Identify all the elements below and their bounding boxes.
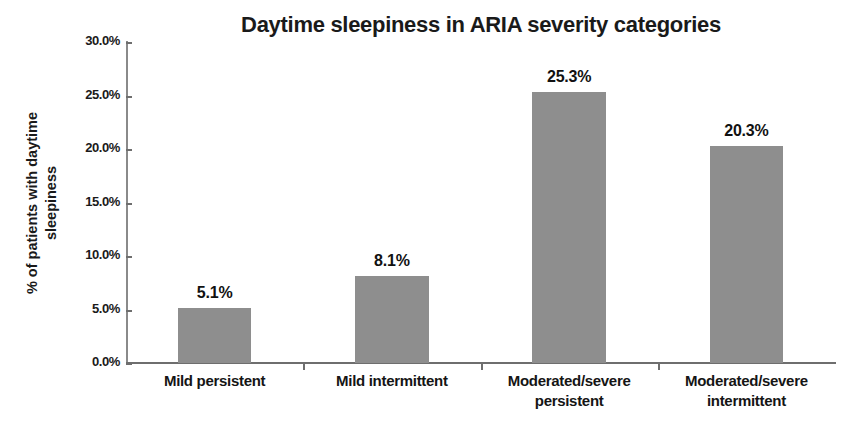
bar-value-label: 5.1%	[126, 284, 303, 302]
x-axis-category-line: Mild intermittent	[303, 371, 480, 391]
y-tick-label: 25.0%	[58, 87, 120, 102]
bar-value-label: 8.1%	[303, 252, 480, 270]
bar[interactable]	[710, 146, 784, 363]
bar-value-label: 25.3%	[481, 68, 658, 86]
y-tick-label: 5.0%	[58, 301, 120, 316]
x-axis-category-line: Moderated/severe	[658, 371, 835, 391]
x-axis-category-label: Moderated/severepersistent	[481, 371, 658, 411]
y-tick-mark	[126, 310, 132, 312]
y-tick-mark	[126, 256, 132, 258]
y-tick-mark	[126, 42, 132, 44]
y-tick-label: 10.0%	[58, 247, 120, 262]
x-tick-mark	[303, 363, 305, 370]
x-axis-category-label: Moderated/severeintermittent	[658, 371, 835, 411]
x-axis-category-line: Moderated/severe	[481, 371, 658, 391]
x-axis-category-line: intermittent	[658, 391, 835, 411]
y-axis-title-line-1: % of patients with daytime	[23, 112, 42, 294]
x-axis-category-line: persistent	[481, 391, 658, 411]
y-tick-mark	[126, 96, 132, 98]
y-tick-mark	[126, 363, 132, 365]
bar[interactable]	[355, 276, 429, 363]
y-tick-label: 30.0%	[58, 33, 120, 48]
y-tick-mark	[126, 149, 132, 151]
x-axis-category-label: Mild intermittent	[303, 371, 480, 391]
x-axis-category-line: Mild persistent	[126, 371, 303, 391]
chart-title: Daytime sleepiness in ARIA severity cate…	[126, 12, 836, 38]
y-tick-mark	[126, 203, 132, 205]
y-tick-label: 0.0%	[58, 354, 120, 369]
bar[interactable]	[178, 308, 252, 363]
x-tick-mark	[481, 363, 483, 370]
x-tick-mark	[658, 363, 660, 370]
x-axis-category-label: Mild persistent	[126, 371, 303, 391]
y-tick-label: 15.0%	[58, 194, 120, 209]
y-tick-label: 20.0%	[58, 140, 120, 155]
chart-figure: Daytime sleepiness in ARIA severity cate…	[0, 0, 852, 437]
bar-value-label: 20.3%	[658, 122, 835, 140]
bar[interactable]	[532, 92, 606, 363]
